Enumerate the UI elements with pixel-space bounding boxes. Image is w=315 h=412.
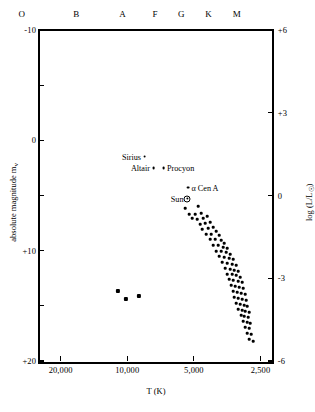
sun-symbol-icon [184,195,191,202]
main-sequence-star-point [237,280,240,283]
y-axis-title-left-text: absolute magnitude m [8,167,18,242]
main-sequence-star-point [242,320,245,323]
main-sequence-star-point [200,212,203,215]
y-axis-title-left: absolute magnitude mv [8,147,21,257]
main-sequence-star-point [205,233,208,236]
y-tick-mark-right [268,30,273,31]
main-sequence-star-point [241,281,244,284]
main-sequence-star-point [223,256,226,259]
axis-line-bottom [38,362,274,364]
main-sequence-star-point [248,311,251,314]
main-sequence-star-point [222,246,225,249]
main-sequence-star-point [197,205,200,208]
main-sequence-star-point [235,302,238,305]
main-sequence-star-point [235,264,238,267]
y-tick-mark-right [268,360,273,361]
x-axis-title: T (K) [38,386,274,396]
main-sequence-star-point [220,250,223,253]
spectral-class-O: O [18,9,25,19]
main-sequence-star-point [202,217,205,220]
main-sequence-star-point [226,262,229,265]
main-sequence-star-point [233,296,236,299]
main-sequence-star-point [244,310,247,313]
main-sequence-star-point [237,297,240,300]
main-sequence-star-point [248,327,251,330]
main-sequence-star-point [196,218,199,221]
main-sequence-star-point [232,279,235,282]
main-sequence-star-point [184,207,187,210]
y-tick-mark-left [39,140,44,141]
y-tick-label-right-0: 0 [278,191,282,200]
x-tick-mark [127,356,128,361]
main-sequence-star-point [244,326,247,329]
main-sequence-star-point [234,285,237,288]
spectral-class-B: B [73,9,79,19]
main-sequence-star-point [210,233,213,236]
main-sequence-star-point [215,250,218,253]
main-sequence-star-point [201,228,204,231]
main-sequence-star-point [231,273,234,276]
main-sequence-star-point [218,234,221,237]
main-sequence-star-point [209,221,212,224]
main-sequence-star-point [237,308,240,311]
main-sequence-star-point [240,292,243,295]
y-tick-label-right--6: -6 [278,357,285,366]
x-tick-label-10000: 10,000 [115,366,139,375]
main-sequence-star-point [246,305,249,308]
main-sequence-star-point [235,274,238,277]
spectral-class-M: M [233,9,241,19]
main-sequence-star-point [243,315,246,318]
y-tick-label-right--3: -3 [278,274,285,283]
star-label-Sirius: Sirius [122,152,141,161]
main-sequence-star-point [238,286,241,289]
main-sequence-star-point [221,261,224,264]
main-sequence-star-point [212,244,215,247]
x-tick-mark [260,356,261,361]
main-sequence-star-point [249,322,252,325]
main-sequence-star-point [246,332,249,335]
y-tick-mark-left [39,85,44,86]
named-star-point-Altair [152,167,155,170]
main-sequence-star-point [212,226,215,229]
main-sequence-star-point [237,270,240,273]
main-sequence-star-point [224,267,227,270]
main-sequence-star-point [218,255,221,258]
main-sequence-star-point [199,223,202,226]
main-sequence-star-point [226,273,229,276]
star-label-Altair: Altair [131,164,150,173]
y-tick-mark-left [39,195,44,196]
x-tick-label-20000: 20,000 [49,366,73,375]
main-sequence-star-point [239,276,242,279]
main-sequence-star-point [225,251,228,254]
spectral-class-K: K [205,9,212,19]
y-tick-mark-left [39,250,44,251]
spectral-class-F: F [152,9,157,19]
y-tick-mark-left [39,305,44,306]
main-sequence-star-point [206,215,209,218]
named-star-point-Procyon [162,167,165,170]
y-axis-title-right: log (L/L☉) [304,147,315,257]
named-star-point-Sirius [143,155,146,158]
main-sequence-star-point [223,242,226,245]
main-sequence-star-point [188,213,191,216]
star-label-Procyon: Procyon [167,164,194,173]
y-tick-mark-left [39,30,44,31]
plot-frame [38,29,274,362]
main-sequence-star-point [226,247,229,250]
y-tick-mark-left [39,360,44,361]
main-sequence-star-point [236,291,239,294]
main-sequence-star-point [248,338,251,341]
main-sequence-star-point [214,238,217,241]
named-star-point-alpha-cen-a [187,186,190,189]
spectral-class-A: A [119,9,126,19]
y-tick-label-left-0: 0 [12,136,36,145]
main-sequence-star-point [252,340,255,343]
star-label-alpha-cen-a: α Cen A [192,183,219,192]
main-sequence-star-point [209,238,212,241]
y-tick-mark-right [268,112,273,113]
main-sequence-star-point [231,263,234,266]
main-sequence-star-point [232,258,235,261]
main-sequence-star-point [191,217,194,220]
main-sequence-star-point [250,333,253,336]
x-tick-mark [193,356,194,361]
